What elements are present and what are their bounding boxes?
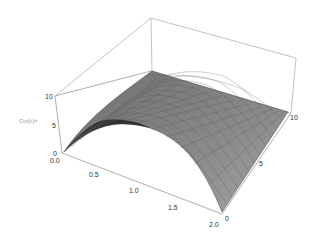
x-tick-label: 2.0	[209, 221, 219, 228]
x-axis: 0.0 0.5 1.0 1.5 2.0	[50, 157, 219, 228]
x-tick-label: 1.5	[168, 204, 178, 211]
x-tick-label: 0.5	[89, 171, 99, 178]
y-tick-label: 10	[290, 114, 298, 121]
y-tick-label: 0	[225, 215, 229, 222]
plot3d[interactable]: 0.0 0.5 1.0 1.5 2.0 0 5 10 0 5 10	[0, 0, 313, 241]
y-tick-label: 5	[259, 160, 263, 167]
z-tick-label: 5	[52, 122, 56, 129]
surface	[64, 71, 288, 212]
z-tick-label: 10	[45, 93, 53, 100]
x-tick-label: 0.0	[50, 157, 60, 164]
z-axis: 0 5 10	[45, 93, 57, 157]
x-tick-label: 1.0	[129, 187, 139, 194]
z-tick-label: 0	[53, 150, 57, 157]
